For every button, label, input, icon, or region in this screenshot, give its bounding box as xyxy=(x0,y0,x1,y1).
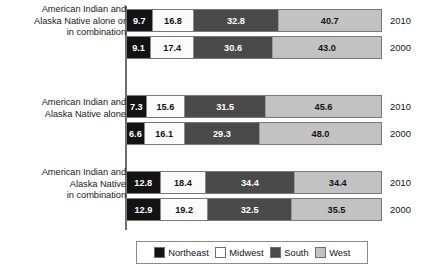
segment-northeast[interactable]: 12.9 xyxy=(127,199,160,220)
group-label-line2: Alaska Native alone xyxy=(7,109,126,121)
segment-west[interactable]: 40.7 xyxy=(278,10,381,31)
year-label: 2000 xyxy=(390,128,428,139)
segment-midwest[interactable]: 16.1 xyxy=(144,123,185,144)
bar-row-2000: 9.1 17.4 30.6 43.0 2000 xyxy=(126,36,382,59)
group-label-line2: Alaska Native alone or xyxy=(7,16,126,28)
segment-northeast[interactable]: 7.3 xyxy=(127,96,146,117)
segment-midwest[interactable]: 15.6 xyxy=(146,96,186,117)
segment-south[interactable]: 31.5 xyxy=(185,96,265,117)
group-label-line3: in combination xyxy=(7,27,126,39)
segment-midwest[interactable]: 17.4 xyxy=(150,37,194,58)
year-label: 2010 xyxy=(390,15,428,26)
segment-south[interactable]: 34.4 xyxy=(206,172,293,193)
segment-west[interactable]: 45.6 xyxy=(265,96,381,117)
bar-row-2010: 7.3 15.6 31.5 45.6 2010 xyxy=(126,95,382,118)
year-label: 2010 xyxy=(390,101,428,112)
segment-west[interactable]: 34.4 xyxy=(294,172,381,193)
group-label-line2: Alaska Native xyxy=(7,179,126,191)
segment-south[interactable]: 32.8 xyxy=(194,10,277,31)
segment-west[interactable]: 43.0 xyxy=(272,37,381,58)
group-label-alone: American Indian and Alaska Native alone xyxy=(7,97,126,120)
stacked-bar: 12.8 18.4 34.4 34.4 xyxy=(126,171,382,194)
segment-northeast[interactable]: 6.6 xyxy=(127,123,144,144)
stacked-bar: 12.9 19.2 32.5 35.5 xyxy=(126,198,382,221)
stacked-bar: 6.6 16.1 29.3 48.0 xyxy=(126,122,382,145)
segment-midwest[interactable]: 19.2 xyxy=(160,199,209,220)
legend-label-midwest: Midwest xyxy=(229,247,263,258)
stacked-bar: 9.1 17.4 30.6 43.0 xyxy=(126,36,382,59)
group-label-alone-or-in-combination: American Indian and Alaska Native alone … xyxy=(7,4,126,39)
legend-label-south: South xyxy=(284,247,309,258)
bar-group-in-combination: American Indian and Alaska Native in com… xyxy=(0,168,429,224)
stacked-bar-chart: American Indian and Alaska Native alone … xyxy=(0,0,429,274)
segment-west[interactable]: 35.5 xyxy=(291,199,381,220)
segment-west[interactable]: 48.0 xyxy=(259,123,381,144)
stacked-bar: 7.3 15.6 31.5 45.6 xyxy=(126,95,382,118)
segment-midwest[interactable]: 16.8 xyxy=(152,10,195,31)
bar-row-2010: 9.7 16.8 32.8 40.7 2010 xyxy=(126,9,382,32)
south-swatch-icon xyxy=(270,247,281,258)
bar-group-alone-or-in-combination: American Indian and Alaska Native alone … xyxy=(0,6,429,62)
northeast-swatch-icon xyxy=(154,247,165,258)
group-label-line1: American Indian and xyxy=(7,4,126,16)
year-label: 2000 xyxy=(390,42,428,53)
group-label-in-combination: American Indian and Alaska Native in com… xyxy=(7,167,126,202)
midwest-swatch-icon xyxy=(215,247,226,258)
legend-item-northeast[interactable]: Northeast xyxy=(154,247,209,258)
segment-northeast[interactable]: 9.1 xyxy=(127,37,150,58)
segment-south[interactable]: 29.3 xyxy=(185,123,259,144)
group-label-line3: in combination xyxy=(7,190,126,202)
segment-northeast[interactable]: 9.7 xyxy=(127,10,152,31)
stacked-bar: 9.7 16.8 32.8 40.7 xyxy=(126,9,382,32)
segment-south[interactable]: 30.6 xyxy=(194,37,272,58)
segment-midwest[interactable]: 18.4 xyxy=(160,172,207,193)
plot-area: American Indian and Alaska Native alone … xyxy=(0,0,429,232)
year-label: 2010 xyxy=(390,177,428,188)
chart-legend: Northeast Midwest South West xyxy=(136,241,368,264)
legend-item-midwest[interactable]: Midwest xyxy=(215,247,264,258)
segment-south[interactable]: 32.5 xyxy=(208,199,290,220)
bar-row-2000: 12.9 19.2 32.5 35.5 2000 xyxy=(126,198,382,221)
bar-group-alone: American Indian and Alaska Native alone … xyxy=(0,92,429,148)
year-label: 2000 xyxy=(390,204,428,215)
west-swatch-icon xyxy=(315,247,326,258)
bar-row-2000: 6.6 16.1 29.3 48.0 2000 xyxy=(126,122,382,145)
group-label-line1: American Indian and xyxy=(7,97,126,109)
legend-label-west: West xyxy=(329,247,350,258)
legend-item-west[interactable]: West xyxy=(315,247,351,258)
segment-northeast[interactable]: 12.8 xyxy=(127,172,160,193)
bar-row-2010: 12.8 18.4 34.4 34.4 2010 xyxy=(126,171,382,194)
group-label-line1: American Indian and xyxy=(7,167,126,179)
legend-item-south[interactable]: South xyxy=(270,247,309,258)
legend-label-northeast: Northeast xyxy=(168,247,209,258)
